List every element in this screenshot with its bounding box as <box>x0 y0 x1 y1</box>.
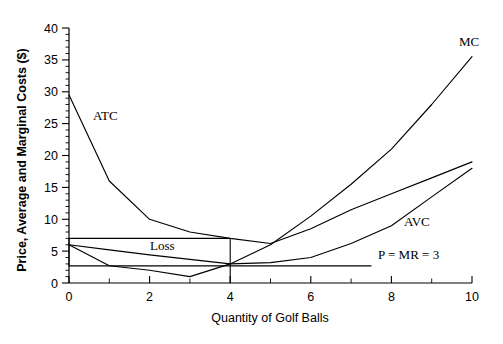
x-tick-label: 8 <box>388 290 395 304</box>
price-mr-label: P = MR = 3 <box>378 247 439 262</box>
y-axis-ticks <box>62 28 69 283</box>
x-tick-label: 10 <box>465 290 479 304</box>
chart-canvas: Price, Average and Marginal Costs ($) <box>0 0 503 344</box>
atc-curve-label: ATC <box>93 108 118 123</box>
y-axis-tick-labels: 40 35 30 25 20 15 10 5 0 <box>44 22 58 291</box>
y-tick-label: 10 <box>44 213 58 227</box>
x-axis-tick-labels: 0 2 4 6 8 10 <box>66 290 479 304</box>
y-axis-title: Price, Average and Marginal Costs ($) <box>15 48 29 271</box>
loss-label: Loss <box>150 238 175 253</box>
x-axis-ticks <box>69 276 472 283</box>
avc-curve-label: AVC <box>404 214 430 229</box>
y-tick-label: 15 <box>44 181 58 195</box>
y-tick-label: 35 <box>44 53 58 67</box>
y-tick-label: 5 <box>51 245 58 259</box>
cost-curves-chart: Price, Average and Marginal Costs ($) <box>0 0 503 344</box>
y-tick-label: 0 <box>51 277 58 291</box>
x-tick-label: 4 <box>227 290 234 304</box>
y-tick-label: 40 <box>44 22 58 36</box>
y-tick-label: 30 <box>44 85 58 99</box>
x-tick-label: 6 <box>307 290 314 304</box>
x-tick-label: 2 <box>146 290 153 304</box>
x-axis-title: Quantity of Golf Balls <box>211 311 328 325</box>
x-tick-label: 0 <box>66 290 73 304</box>
mc-curve-label: MC <box>459 34 479 49</box>
y-tick-label: 25 <box>44 117 58 131</box>
y-tick-label: 20 <box>44 149 58 163</box>
